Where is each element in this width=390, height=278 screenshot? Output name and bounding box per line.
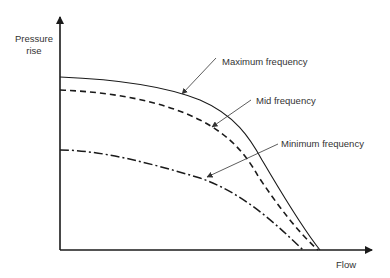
y-axis-label-line2: rise [26,45,41,56]
leader-mid-frequency [212,100,251,127]
label-minimum-frequency: Minimum frequency [281,138,364,149]
diagram-canvas: Pressure rise Flow Maximum frequency Mid… [0,0,390,278]
y-axis-label-line1: Pressure [15,33,53,44]
label-mid-frequency: Mid frequency [256,95,316,106]
curve-mid-frequency [60,90,318,250]
leader-maximum-frequency [182,58,216,94]
pressure-flow-diagram: Pressure rise Flow Maximum frequency Mid… [0,0,390,278]
curve-minimum-frequency [60,150,303,250]
x-axis-label: Flow [336,259,356,270]
leader-minimum-frequency [207,144,278,177]
label-maximum-frequency: Maximum frequency [222,56,308,67]
